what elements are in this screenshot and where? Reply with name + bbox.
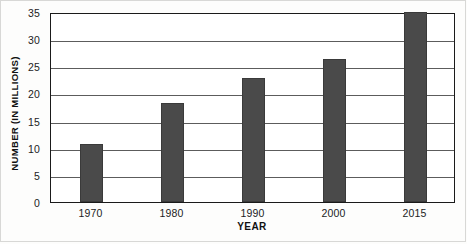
bar [161, 103, 184, 202]
y-axis-tick-label: 20 [28, 89, 40, 100]
plot-area [50, 13, 455, 203]
bar-chart-figure: 05101520253035 NUMBER (IN MILLIONS) YEAR… [0, 0, 467, 244]
y-axis-tick-label: 30 [28, 35, 40, 46]
x-axis-tick-label: 2000 [321, 207, 345, 219]
y-axis-tick-labels: 05101520253035 [0, 0, 46, 244]
x-axis-tick-label: 1990 [240, 207, 264, 219]
x-axis-tick-label: 1970 [78, 207, 102, 219]
y-axis-tick-label: 10 [28, 143, 40, 154]
y-axis-tick-label: 35 [28, 8, 40, 19]
x-axis-tick-label: 2015 [402, 207, 426, 219]
bar [404, 12, 427, 202]
x-axis-tick-label: 1980 [159, 207, 183, 219]
gridline [51, 68, 454, 69]
bar [323, 59, 346, 202]
bar [242, 78, 265, 202]
y-axis-tick-label: 0 [34, 198, 40, 209]
y-axis-tick-label: 15 [28, 116, 40, 127]
y-axis-tick-label: 25 [28, 62, 40, 73]
y-axis-title: NUMBER (IN MILLIONS) [9, 34, 20, 194]
bar [80, 144, 103, 202]
y-axis-tick-label: 5 [34, 170, 40, 181]
x-axis-title: YEAR [237, 221, 266, 232]
gridline [51, 41, 454, 42]
